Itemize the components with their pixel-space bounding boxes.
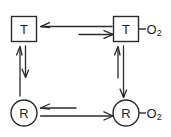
- r-bound-ligand-element: O: [147, 106, 157, 121]
- t-bound-ligand: O2: [147, 22, 162, 39]
- node-r-bound[interactable]: R O2: [113, 100, 162, 126]
- t-bound-label: T: [122, 22, 130, 37]
- node-t-unbound[interactable]: T: [12, 17, 37, 42]
- arrow-left-up: [17, 47, 22, 97]
- arrow-bottom-reverse-head: [41, 104, 50, 109]
- r-bound-ligand: O2: [147, 106, 162, 123]
- t-bound-ligand-element: O: [147, 22, 157, 37]
- arrow-left-down: [22, 46, 29, 78]
- diagram-canvas: T T O2 R R O2: [0, 0, 171, 137]
- r-bound-ligand-subscript: 2: [157, 112, 162, 122]
- arrow-top-reverse: [41, 23, 113, 28]
- arrow-bottom-forward: [41, 112, 114, 120]
- allosteric-model-diagram: T T O2 R R O2: [0, 0, 171, 137]
- arrow-right-up: [115, 47, 120, 79]
- arrow-bottom-reverse: [41, 104, 77, 109]
- t-bound-ligand-subscript: 2: [157, 28, 162, 38]
- arrow-right-down: [120, 46, 127, 98]
- r-unbound-label: R: [19, 106, 28, 121]
- node-r-unbound[interactable]: R: [11, 100, 37, 126]
- arrow-top-forward: [79, 31, 113, 39]
- arrow-top-reverse-head: [41, 23, 50, 28]
- t-unbound-label: T: [20, 22, 28, 37]
- arrow-right-up-head: [115, 47, 120, 56]
- r-bound-label: R: [121, 106, 130, 121]
- arrow-left-up-head: [17, 47, 22, 56]
- node-t-bound[interactable]: T O2: [114, 17, 162, 42]
